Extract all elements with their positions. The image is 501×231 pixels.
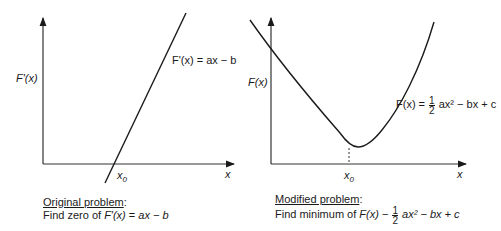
- objective-curve-label: F(x) = 12 ax² − bx + c: [396, 96, 496, 115]
- root-label: x0: [116, 169, 128, 184]
- derivative-curve-label: F'(x) = ax − b: [172, 54, 236, 66]
- objective-curve-label-rest: ax² − bx + c: [436, 98, 497, 110]
- modified-problem-caption: Modified problem: Find minimum of F(x) −…: [275, 193, 460, 225]
- right-x-axis-label: x: [456, 168, 463, 180]
- right-y-axis-label: F(x): [248, 76, 268, 88]
- objective-fraction: 12: [429, 96, 435, 115]
- original-problem-caption: Original problem: Find zero of F'(x) = a…: [43, 196, 169, 222]
- objective-curve: [250, 20, 434, 147]
- modified-problem-title: Modified problem: [275, 193, 359, 205]
- original-problem-text: Find zero of F'(x) = ax − b: [43, 209, 169, 222]
- minimum-label: x0: [343, 169, 355, 184]
- original-problem-title: Original problem: [43, 196, 124, 208]
- modified-problem-text: Find minimum of F(x) − 12 ax² − bx + c: [275, 206, 460, 225]
- left-x-axis-label: x: [224, 168, 231, 180]
- left-panel: F'(x) x x0 F'(x) = ax − b: [16, 13, 236, 184]
- objective-curve-label-fn: F(x) =: [396, 98, 428, 110]
- left-y-axis-label: F'(x): [16, 72, 38, 84]
- derivative-line: [105, 13, 186, 183]
- caption-fraction: 12: [392, 206, 398, 225]
